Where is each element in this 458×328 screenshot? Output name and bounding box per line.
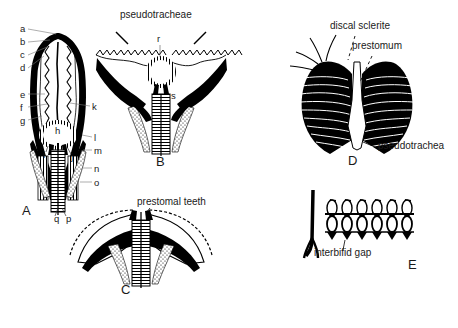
strut-right-c xyxy=(152,244,174,284)
key-letter-h: h xyxy=(55,126,60,136)
annotation-pseudotracheae: pseudotracheae xyxy=(120,10,192,20)
ring-unit-e xyxy=(387,199,397,240)
annotation-interbifid-gap: interbifid gap xyxy=(314,248,371,258)
annotation-prestomal-teeth: prestomal teeth xyxy=(137,197,206,207)
panel-letter-e: E xyxy=(408,258,417,271)
key-letter-c: c xyxy=(20,50,25,60)
panel-a-drawing xyxy=(28,29,92,216)
ring-unit-e xyxy=(372,199,382,240)
panel-letter-b: B xyxy=(156,155,165,168)
strut-left-c xyxy=(108,244,130,284)
fringe-left-b xyxy=(96,50,166,55)
panel-letter-c: C xyxy=(121,283,130,296)
key-letter-q: q xyxy=(54,214,59,224)
key-letter-a: a xyxy=(20,24,25,34)
ring-unit-e xyxy=(342,199,352,240)
membrane-wave-right-b xyxy=(170,55,226,66)
fringe-right-b xyxy=(172,50,242,55)
panel-letter-a: A xyxy=(22,204,31,217)
panel-b-drawing xyxy=(96,32,242,156)
panel-d-drawing xyxy=(290,35,413,154)
key-letter-j: j xyxy=(71,152,73,162)
panel-letter-d: D xyxy=(348,154,357,167)
leader-pseudotracheae-right xyxy=(194,32,206,44)
key-letter-p: p xyxy=(66,214,71,224)
ring-series-e xyxy=(327,199,412,240)
ring-unit-e xyxy=(357,199,367,240)
key-letter-m: m xyxy=(94,146,102,156)
key-letter-o: o xyxy=(94,178,99,188)
lobe-mass-left-d xyxy=(302,62,352,154)
annotation-prestomum: prestomum xyxy=(352,41,402,51)
key-letter-l: l xyxy=(94,133,96,143)
ring-unit-e xyxy=(402,199,412,240)
key-letter-b: b xyxy=(20,37,25,47)
key-letter-n: n xyxy=(94,164,99,174)
key-letter-g: g xyxy=(20,116,25,126)
key-letter-d: d xyxy=(20,63,25,73)
key-letter-k: k xyxy=(92,102,97,112)
figure-plate: a b c d e f g h i j k l m n o q p r s ps… xyxy=(0,0,458,328)
key-letter-i: i xyxy=(43,150,45,160)
panel-c-drawing xyxy=(70,208,212,288)
leader-pseudotracheae-left xyxy=(116,32,128,44)
key-letter-r: r xyxy=(157,34,160,44)
annotation-discal-sclerite: discal sclerite xyxy=(330,21,390,31)
key-letter-e: e xyxy=(20,90,25,100)
ring-unit-e xyxy=(327,199,337,240)
key-letter-s: s xyxy=(171,91,176,101)
annotation-pseudotrachea: pseudotrachea xyxy=(378,141,444,151)
key-letter-f: f xyxy=(20,103,23,113)
